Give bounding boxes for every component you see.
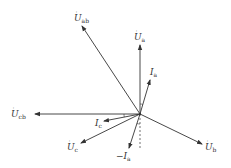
label-neg-i-a: −Ia [116,151,131,162]
origin-point [139,113,141,115]
angle-arc-neg-ia [137,124,140,125]
phasor-neg-i-a-arrow [129,114,140,148]
label-i-c: Ic [94,118,103,129]
phasor-u-ab-arrow [82,26,140,114]
phasor-i-a-arrow [140,80,150,114]
dot-accent-u-a: · [136,27,138,34]
phasor-i-c-arrow [104,114,140,121]
label-i-a: Ia [149,67,158,78]
dot-accent-u-ab: · [76,8,78,15]
dot-accent-u-c: · [69,137,71,144]
phasor-diagram: Uab · Ua · Ia Ucb · Ic Uc · −Ia Ub · [0,0,231,168]
phasor-u-c-arrow [81,114,140,143]
dot-accent-u-cb: · [13,104,15,111]
dot-accent-u-b: · [207,137,209,144]
phasor-u-b-arrow [140,114,202,144]
